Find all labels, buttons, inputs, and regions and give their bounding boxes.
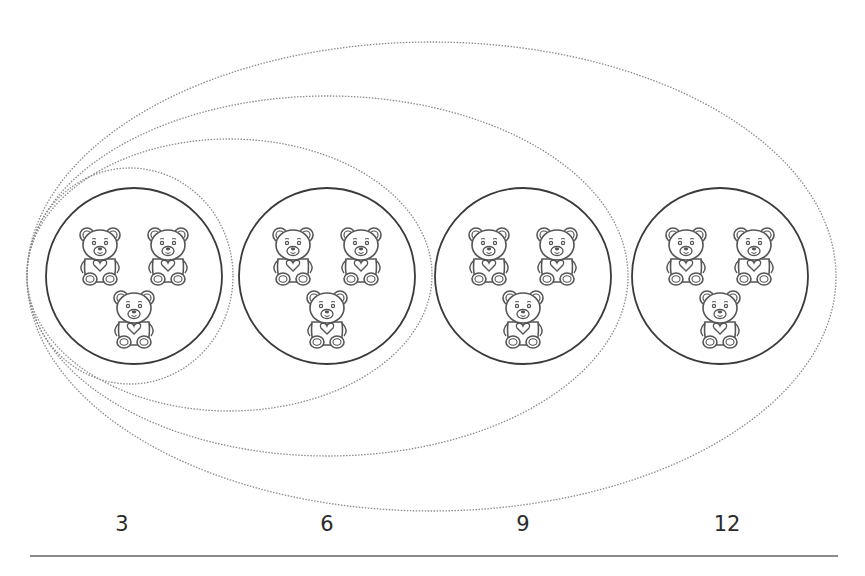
teddy-bear-icon — [469, 228, 509, 285]
bear-group-3 — [435, 188, 611, 364]
teddy-bear-icon — [307, 291, 347, 348]
bear-group-4 — [632, 188, 808, 364]
cumulative-ellipses — [27, 42, 836, 511]
teddy-bear-icon — [341, 228, 381, 285]
bear-group-1 — [46, 188, 222, 364]
teddy-bear-icon — [734, 228, 774, 285]
cumulative-ellipse-12 — [27, 42, 836, 511]
count-label-12: 12 — [697, 512, 757, 536]
teddy-bear-icon — [537, 228, 577, 285]
teddy-bear-icon — [80, 228, 120, 285]
teddy-bear-icon — [273, 228, 313, 285]
cumulative-ellipse-9 — [27, 96, 628, 456]
count-label-6: 6 — [297, 512, 357, 536]
teddy-bear-icon — [666, 228, 706, 285]
bear-group-2 — [239, 188, 415, 364]
teddy-bear-icon — [503, 291, 543, 348]
count-label-9: 9 — [493, 512, 553, 536]
cumulative-ellipse-3 — [27, 168, 233, 384]
baseline-divider — [30, 555, 838, 557]
teddy-bear-icon — [148, 228, 188, 285]
grouping-diagram — [0, 0, 865, 576]
teddy-bear-icon — [700, 291, 740, 348]
bear-groups — [46, 188, 808, 364]
teddy-bear-icon — [114, 291, 154, 348]
count-label-3: 3 — [92, 512, 152, 536]
